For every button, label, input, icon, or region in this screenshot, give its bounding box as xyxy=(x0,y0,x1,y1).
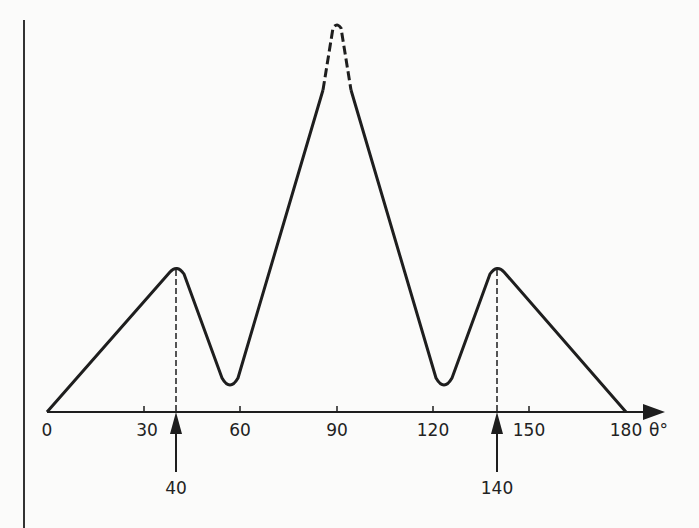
curve-apex-dashed xyxy=(323,25,351,90)
curve-right xyxy=(351,90,626,412)
marker-label-140: 140 xyxy=(481,478,513,498)
marker-arrow-140 xyxy=(491,412,503,472)
tick-label-90: 90 xyxy=(326,420,348,440)
marker-arrow-40 xyxy=(170,412,182,472)
tick-label-30: 30 xyxy=(136,420,158,440)
tick-label-150: 150 xyxy=(513,420,545,440)
arrow-up-icon xyxy=(491,412,503,434)
tick-label-0: 0 xyxy=(42,420,53,440)
tick-label-60: 60 xyxy=(229,420,251,440)
x-axis-arrowhead-icon xyxy=(643,404,665,420)
tick-label-180: 180 xyxy=(610,420,642,440)
marker-label-40: 40 xyxy=(165,478,187,498)
tick-label-120: 120 xyxy=(417,420,449,440)
arrow-up-icon xyxy=(170,412,182,434)
diagram-canvas: 0 30 60 90 120 150 180 θ° 40 140 xyxy=(0,0,699,528)
axis-unit-label: θ° xyxy=(649,420,668,440)
curve-left xyxy=(47,90,323,412)
